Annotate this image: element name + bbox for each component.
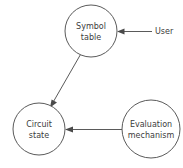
node-circuit-state[interactable]: Circuit state [13,103,65,155]
node-label-evaluation-mechanism-line2: mechanism [128,131,175,140]
node-evaluation-mechanism[interactable]: Evaluation mechanism [122,100,180,158]
node-shape-symbol-table[interactable] [65,5,117,57]
node-label-circuit-state-line1: Circuit [26,120,52,129]
node-label-circuit-state-line2: state [29,131,49,140]
edge-label-user: User [155,27,174,36]
edge-evaluation-mechanism-to-circuit-state [65,127,122,133]
node-label-evaluation-mechanism-line1: Evaluation [130,120,172,129]
edge-symbol-table-to-circuit-state [50,55,81,108]
node-label-symbol-table-line1: Symbol [76,22,106,31]
node-symbol-table[interactable]: Symbol table [65,5,117,57]
node-shape-circuit-state[interactable] [13,103,65,155]
node-label-symbol-table-line2: table [81,33,101,42]
node-shape-evaluation-mechanism[interactable] [122,100,180,158]
edge-line-symbol-table-to-circuit-state [54,55,81,102]
diagram-svg: Symbol table Circuit state Evaluation me… [0,0,183,168]
diagram-canvas: Symbol table Circuit state Evaluation me… [0,0,183,168]
edge-user-to-symbol-table [117,29,152,35]
arrow-head-icon-evaluation-mechanism-to-circuit-state [65,127,73,133]
arrow-head-icon-user-to-symbol-table [117,29,125,35]
